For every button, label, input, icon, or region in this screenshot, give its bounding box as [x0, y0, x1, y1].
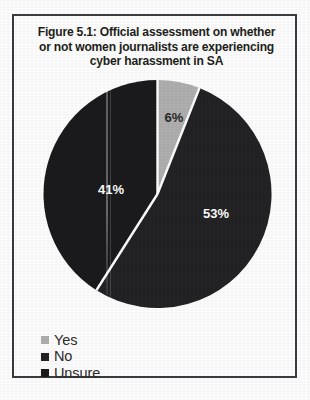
- legend-item-unsure[interactable]: Unsure: [41, 365, 191, 382]
- figure-container: Figure 5.1: Official assessment on wheth…: [0, 0, 310, 400]
- figure-frame-border: Figure 5.1: Official assessment on wheth…: [12, 14, 297, 378]
- legend-label-yes: Yes: [54, 333, 77, 348]
- legend-swatch-unsure-icon: [41, 369, 49, 377]
- figure-title-line-2: or not women journalists are experiencin…: [32, 40, 281, 55]
- legend-label-unsure: Unsure: [54, 366, 100, 381]
- figure-title-line-1: Figure 5.1: Official assessment on wheth…: [32, 25, 281, 40]
- legend-swatch-yes-icon: [41, 336, 49, 344]
- chart-legend: Yes No Unsure: [41, 332, 191, 382]
- pie-label-unsure: 41%: [98, 182, 124, 197]
- figure-title: Figure 5.1: Official assessment on wheth…: [32, 25, 281, 69]
- pie-label-no: 53%: [203, 206, 229, 221]
- pie-chart: 6% 53% 41%: [40, 66, 275, 311]
- legend-item-yes[interactable]: Yes: [41, 332, 191, 349]
- legend-item-no[interactable]: No: [41, 349, 191, 366]
- pie-label-yes: 6%: [165, 110, 184, 125]
- pie-chart-svg: 6% 53% 41%: [40, 66, 275, 311]
- legend-label-no: No: [54, 349, 72, 364]
- legend-swatch-no-icon: [41, 353, 49, 361]
